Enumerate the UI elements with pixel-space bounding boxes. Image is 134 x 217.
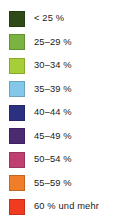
legend-color-swatch [9, 81, 25, 97]
legend-swatch-cell [0, 175, 34, 191]
legend-item: 55–59 % [0, 172, 134, 196]
legend-item-label: 50–54 % [34, 155, 72, 164]
legend-item-label: 25–29 % [34, 38, 72, 47]
legend-item: 30–34 % [0, 54, 134, 78]
legend-item-label: < 25 % [34, 14, 64, 23]
legend-color-swatch [9, 152, 25, 168]
legend-color-swatch [9, 11, 25, 27]
legend-item-label: 35–39 % [34, 85, 72, 94]
legend-color-swatch [9, 105, 25, 121]
legend-item: 60 % und mehr [0, 195, 134, 217]
legend-item: 35–39 % [0, 78, 134, 102]
legend-item-label: 60 % und mehr [34, 202, 99, 211]
legend-swatch-cell [0, 152, 34, 168]
legend-swatch-cell [0, 11, 34, 27]
legend-color-swatch [9, 34, 25, 50]
legend-item-label: 45–49 % [34, 132, 72, 141]
legend-swatch-cell [0, 81, 34, 97]
legend-item: 45–49 % [0, 125, 134, 149]
legend-item: 25–29 % [0, 31, 134, 55]
legend-swatch-cell [0, 34, 34, 50]
legend-swatch-cell [0, 58, 34, 74]
legend-item: 40–44 % [0, 101, 134, 125]
legend-item: < 25 % [0, 7, 134, 31]
legend-item-label: 55–59 % [34, 179, 72, 188]
legend-color-swatch [9, 175, 25, 191]
legend-item-label: 30–34 % [34, 61, 72, 70]
legend-item: 50–54 % [0, 148, 134, 172]
legend-swatch-cell [0, 128, 34, 144]
legend-color-swatch [9, 199, 25, 215]
legend-swatch-cell [0, 199, 34, 215]
legend-swatch-cell [0, 105, 34, 121]
legend-color-swatch [9, 128, 25, 144]
map-legend: < 25 % 25–29 % 30–34 % 35–39 % 40–44 % 4… [0, 0, 134, 217]
legend-color-swatch [9, 58, 25, 74]
legend-item-label: 40–44 % [34, 108, 72, 117]
